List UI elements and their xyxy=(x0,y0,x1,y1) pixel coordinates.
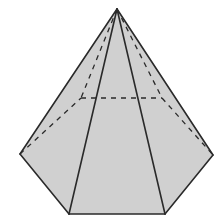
hexagonal-pyramid-figure xyxy=(0,0,220,221)
